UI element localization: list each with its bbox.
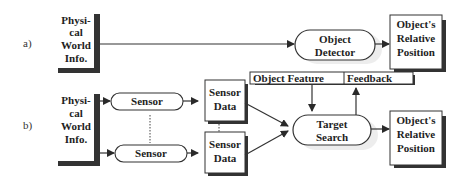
row-b-output-line-2: Relative [397, 128, 436, 140]
row-b-sensor-data-1: Sensor Data [205, 80, 248, 124]
row-b-sensor-data-1-line-1: Sensor [209, 86, 241, 98]
row-a-input-line-3: World [61, 39, 91, 51]
row-b-output-line-1: Object's [396, 114, 436, 126]
row-b-input-line-1: Physi- [61, 94, 91, 106]
row-b-sensor-2-label: Sensor [135, 147, 167, 159]
row-b-arrow-data2-to-search [245, 131, 288, 155]
row-b-input-line-3: World [61, 120, 91, 132]
row-b-input-line-2: cal [69, 107, 82, 119]
diagram-canvas: a) Physi- cal World Info. Object Detecto… [0, 0, 476, 181]
row-a-physical-world-box: Physi- cal World Info. [58, 14, 100, 73]
row-b-sensor-2: Sensor [115, 145, 187, 162]
row-b-output-line-3: Position [397, 142, 435, 154]
row-a-object-detector: Object Detector [295, 30, 382, 64]
row-b-feedback-label: Feedback [347, 72, 393, 84]
row-b-feedback-bar: Object Feature Feedback [250, 72, 415, 85]
row-a-process-line-1: Object [319, 33, 351, 45]
row-b-sensor-data-2-line-1: Sensor [209, 138, 241, 150]
row-b-sensor-1-label: Sensor [131, 95, 163, 107]
row-a-output-line-3: Position [397, 46, 435, 58]
row-b-sensor-data-1-line-2: Data [214, 100, 237, 112]
row-b-object-feature-label: Object Feature [253, 72, 324, 84]
row-a-output-line-2: Relative [397, 32, 436, 44]
row-b-input-line-4: Info. [65, 133, 88, 145]
row-a-label: a) [23, 37, 32, 50]
row-a-input-line-4: Info. [65, 52, 88, 64]
row-a-output-box: Object's Relative Position [390, 15, 446, 72]
row-a-input-line-1: Physi- [61, 14, 91, 26]
row-b-label: b) [23, 119, 33, 132]
row-b-physical-world-box: Physi- cal World Info. [58, 94, 100, 166]
row-a-output-line-1: Object's [396, 18, 436, 30]
row-b-process-line-2: Search [316, 131, 348, 143]
row-b-process-line-1: Target [317, 118, 348, 130]
row-b-output-box: Object's Relative Position [390, 111, 446, 168]
row-b-sensor-data-2-line-2: Data [214, 152, 237, 164]
row-b-arrow-data1-to-search [245, 103, 288, 126]
row-a-input-line-2: cal [69, 26, 82, 38]
row-b-sensor-1: Sensor [111, 93, 183, 110]
row-a-process-line-2: Detector [315, 46, 355, 58]
row-b-sensor-data-2: Sensor Data [205, 132, 248, 176]
row-b-target-search: Target Search [293, 115, 378, 150]
